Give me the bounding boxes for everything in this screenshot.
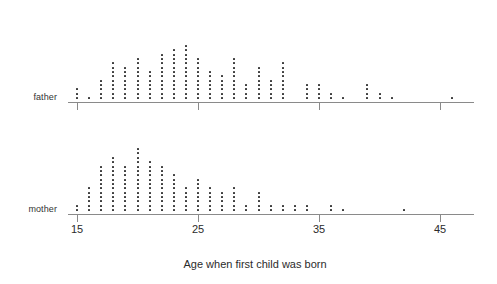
data-dot — [245, 205, 247, 207]
data-dot — [185, 196, 187, 198]
data-dot — [76, 205, 78, 207]
data-dot — [137, 179, 139, 181]
dot-column — [245, 0, 248, 214]
data-dot — [197, 205, 199, 207]
dot-column — [173, 0, 176, 214]
mother-tick-25 — [198, 215, 199, 222]
data-dot — [137, 196, 139, 198]
data-dot — [161, 196, 163, 198]
data-dot — [185, 209, 187, 211]
data-dot — [173, 187, 175, 189]
data-dot — [209, 205, 211, 207]
data-dot — [124, 174, 126, 176]
data-dot — [233, 200, 235, 202]
data-dot — [149, 174, 151, 176]
data-dot — [88, 196, 90, 198]
data-dot — [149, 179, 151, 181]
dot-column — [149, 0, 152, 214]
data-dot — [161, 192, 163, 194]
data-dot — [112, 205, 114, 207]
x-tick-label-15: 15 — [71, 223, 83, 235]
dot-column — [270, 0, 273, 214]
dot-column — [294, 0, 297, 214]
data-dot — [258, 200, 260, 202]
mother-tick-15 — [77, 215, 78, 222]
data-dot — [209, 200, 211, 202]
data-dot — [161, 170, 163, 172]
x-tick-label-45: 45 — [434, 223, 446, 235]
data-dot — [137, 209, 139, 211]
data-dot — [294, 209, 296, 211]
data-dot — [100, 209, 102, 211]
data-dot — [173, 174, 175, 176]
data-dot — [197, 196, 199, 198]
data-dot — [100, 174, 102, 176]
data-dot — [100, 170, 102, 172]
data-dot — [124, 187, 126, 189]
data-dot — [197, 183, 199, 185]
data-dot — [233, 205, 235, 207]
data-dot — [137, 183, 139, 185]
dot-column — [342, 0, 345, 214]
dot-column — [330, 0, 333, 214]
data-dot — [221, 205, 223, 207]
data-dot — [209, 192, 211, 194]
data-dot — [270, 205, 272, 207]
data-dot — [221, 209, 223, 211]
data-dot — [124, 205, 126, 207]
data-dot — [209, 187, 211, 189]
data-dot — [185, 205, 187, 207]
data-dot — [258, 205, 260, 207]
dot-column — [233, 0, 236, 214]
data-dot — [258, 209, 260, 211]
data-dot — [149, 187, 151, 189]
data-dot — [137, 187, 139, 189]
data-dot — [197, 209, 199, 211]
data-dot — [124, 192, 126, 194]
data-dot — [233, 209, 235, 211]
data-dot — [282, 209, 284, 211]
x-tick-label-35: 35 — [313, 223, 325, 235]
data-dot — [330, 209, 332, 211]
dot-column — [403, 0, 406, 214]
dot-column — [282, 0, 285, 214]
data-dot — [282, 205, 284, 207]
data-dot — [149, 170, 151, 172]
data-dot — [330, 205, 332, 207]
dot-column — [306, 0, 309, 214]
data-dot — [306, 209, 308, 211]
data-dot — [173, 196, 175, 198]
dot-column — [124, 0, 127, 214]
data-dot — [137, 152, 139, 154]
data-dot — [233, 187, 235, 189]
data-dot — [88, 200, 90, 202]
dot-column — [161, 0, 164, 214]
data-dot — [173, 192, 175, 194]
data-dot — [221, 192, 223, 194]
data-dot — [270, 209, 272, 211]
data-dot — [100, 196, 102, 198]
data-dot — [161, 174, 163, 176]
data-dot — [112, 170, 114, 172]
mother-tick-45 — [440, 215, 441, 222]
data-dot — [209, 209, 211, 211]
data-dot — [149, 183, 151, 185]
data-dot — [161, 187, 163, 189]
data-dot — [112, 209, 114, 211]
data-dot — [124, 209, 126, 211]
mother-row-label: mother — [0, 204, 57, 214]
data-dot — [112, 157, 114, 159]
data-dot — [124, 166, 126, 168]
mother-axis-line — [68, 214, 474, 215]
dot-column — [221, 0, 224, 214]
data-dot — [124, 196, 126, 198]
x-axis-title: Age when first child was born — [183, 258, 326, 270]
data-dot — [185, 192, 187, 194]
data-dot — [161, 200, 163, 202]
dot-column — [258, 0, 261, 214]
data-dot — [185, 187, 187, 189]
dot-column — [88, 0, 91, 214]
data-dot — [76, 209, 78, 211]
data-dot — [149, 205, 151, 207]
data-dot — [124, 170, 126, 172]
